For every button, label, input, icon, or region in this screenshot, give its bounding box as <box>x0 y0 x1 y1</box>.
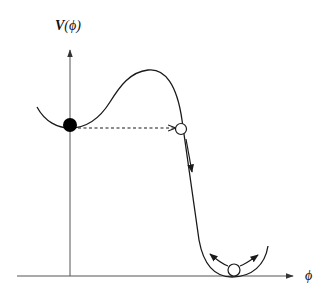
true-vacuum-ball <box>228 264 240 276</box>
tunneled-ball <box>176 124 187 135</box>
false-vacuum-ball <box>63 118 77 132</box>
oscillation-arrow-right <box>240 255 258 266</box>
oscillation-arrow-left <box>210 254 228 266</box>
y-axis-label: V(ϕ) <box>55 18 81 34</box>
potential-diagram: V(ϕ) ϕ <box>0 0 329 291</box>
potential-curve <box>37 70 268 277</box>
y-axis-label-arg: (ϕ) <box>64 18 81 34</box>
axes <box>17 50 293 276</box>
x-axis-label: ϕ <box>305 268 312 283</box>
